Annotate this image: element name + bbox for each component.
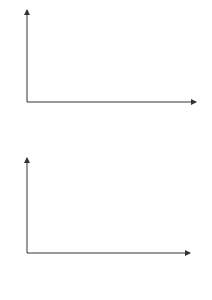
figure-a [27, 10, 196, 102]
figure-b [27, 158, 190, 253]
pwm-diagram [0, 0, 212, 300]
